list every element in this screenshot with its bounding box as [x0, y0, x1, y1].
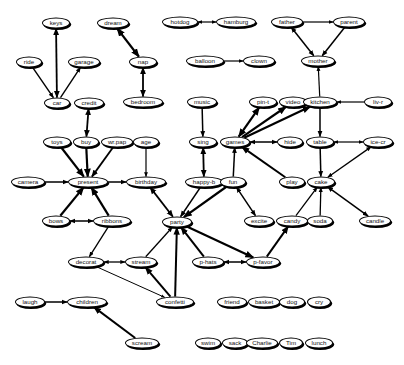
node-label: camera — [18, 179, 39, 185]
edge-credit-buy — [86, 108, 88, 136]
node-basket[interactable]: basket — [248, 297, 280, 308]
node-father[interactable]: father — [271, 17, 303, 28]
node-label: sack — [229, 340, 242, 346]
node-party[interactable]: party — [162, 217, 192, 228]
node-happy-b[interactable]: happy-b — [185, 177, 223, 188]
node-label: laugh — [22, 299, 37, 305]
edge-buy-present — [86, 147, 87, 176]
node-confetti[interactable]: confetti — [156, 297, 194, 308]
node-stream[interactable]: stream — [125, 257, 157, 268]
edge-play-games — [242, 147, 285, 177]
node-parent[interactable]: parent — [333, 17, 365, 28]
node-label: cake — [314, 179, 327, 185]
node-label: excite — [251, 218, 267, 224]
node-scream[interactable]: scream — [125, 338, 159, 349]
node-liv-r[interactable]: liv-r — [364, 97, 392, 108]
edge-scream-children — [94, 307, 135, 338]
node-cry[interactable]: cry — [307, 297, 331, 308]
node-label: music — [194, 99, 210, 105]
node-age[interactable]: age — [133, 137, 159, 148]
node-decorat[interactable]: decorat — [68, 257, 104, 268]
node-fun[interactable]: fun — [220, 177, 246, 188]
edge-car-garage — [60, 67, 80, 97]
node-pin-t[interactable]: pin-t — [249, 97, 277, 108]
node-play[interactable]: play — [279, 177, 305, 188]
edge-music-sing — [202, 107, 203, 136]
node-children[interactable]: children — [67, 297, 107, 308]
node-label: dream — [104, 20, 122, 26]
node-label: mother — [308, 58, 327, 64]
node-car[interactable]: car — [44, 98, 70, 109]
node-excite[interactable]: excite — [244, 216, 274, 227]
node-dream[interactable]: dream — [97, 18, 129, 29]
node-p-hats[interactable]: p-hats — [192, 257, 224, 268]
node-kitchen[interactable]: kitchen — [303, 97, 337, 108]
node-table[interactable]: table — [306, 137, 334, 148]
node-candle[interactable]: candle — [359, 216, 391, 227]
edge-games-kitchen — [244, 107, 310, 138]
node-balloon[interactable]: balloon — [186, 56, 224, 67]
node-mother[interactable]: mother — [301, 56, 335, 67]
node-label: pin-t — [257, 99, 269, 105]
node-music[interactable]: music — [187, 97, 217, 108]
node-ice-cr[interactable]: ice-cr — [363, 137, 393, 148]
edge-father-mother — [291, 27, 314, 55]
node-wr-pap[interactable]: wr.pap — [101, 137, 133, 148]
node-label: happy-b — [193, 179, 215, 185]
node-label: Tim — [286, 340, 296, 346]
node-label: buy — [81, 139, 91, 145]
node-sack[interactable]: sack — [222, 338, 248, 349]
edge-ice-cr-cake — [328, 147, 371, 177]
node-toys[interactable]: toys — [43, 137, 71, 148]
node-label: scream — [132, 340, 152, 346]
node-label: sing — [197, 139, 208, 145]
node-keys[interactable]: keys — [42, 18, 70, 29]
node-label: age — [141, 139, 151, 145]
edge-toys-present — [61, 147, 84, 176]
edge-p-favor-candy — [267, 226, 288, 256]
node-label: bows — [49, 218, 63, 224]
node-label: garage — [74, 59, 93, 65]
node-cake[interactable]: cake — [307, 177, 335, 188]
edge-ride-car — [33, 67, 54, 97]
node-camera[interactable]: camera — [11, 177, 45, 188]
node-ribbons[interactable]: ribbons — [93, 216, 131, 227]
node-friend[interactable]: friend — [217, 297, 247, 308]
node-bedroom[interactable]: bedroom — [123, 97, 163, 108]
node-games[interactable]: games — [220, 137, 250, 148]
node-clown[interactable]: clown — [243, 56, 275, 67]
edge-sing-happy-b — [203, 147, 204, 176]
node-present[interactable]: present — [68, 177, 108, 188]
node-sing[interactable]: sing — [189, 137, 217, 148]
node-label: party — [170, 219, 184, 225]
node-lunch[interactable]: lunch — [305, 338, 333, 349]
node-hotdog[interactable]: hotdog — [162, 17, 198, 28]
node-nap[interactable]: nap — [129, 57, 157, 68]
node-label: soda — [313, 218, 326, 224]
node-ride[interactable]: ride — [16, 57, 42, 68]
edge-fun-excite — [237, 187, 256, 215]
node-buy[interactable]: buy — [73, 137, 99, 148]
node-tim[interactable]: Tim — [279, 338, 303, 349]
node-dog[interactable]: dog — [279, 297, 305, 308]
node-bows[interactable]: bows — [42, 216, 70, 227]
node-swim[interactable]: swim — [195, 338, 221, 349]
node-p-favor[interactable]: p-favor — [246, 257, 280, 268]
node-soda[interactable]: soda — [307, 216, 333, 227]
node-laugh[interactable]: laugh — [15, 297, 45, 308]
node-charlie[interactable]: Charlie — [246, 338, 278, 349]
node-label: ride — [24, 59, 34, 65]
node-hamburg[interactable]: hamburg — [216, 17, 256, 28]
edge-p-hats-party — [181, 227, 204, 256]
node-birthday[interactable]: birthday — [126, 177, 166, 188]
edge-kitchen-mother — [318, 66, 319, 96]
node-candy[interactable]: candy — [276, 216, 308, 227]
edge-confetti-party — [175, 227, 177, 296]
node-garage[interactable]: garage — [68, 57, 100, 68]
node-hide[interactable]: hide — [277, 137, 303, 148]
edge-candy-cake — [296, 187, 317, 215]
node-label: Charlie — [252, 340, 272, 346]
node-label: hotdog — [171, 19, 190, 25]
node-label: basket — [255, 299, 273, 305]
node-credit[interactable]: credit — [74, 98, 104, 109]
